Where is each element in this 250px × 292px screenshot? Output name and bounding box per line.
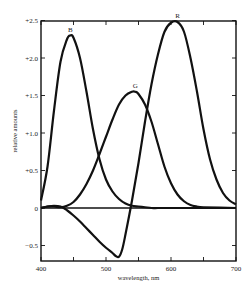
curves (41, 21, 236, 257)
series-label-g: G (133, 82, 138, 90)
y-tick-label: −0.5 (25, 242, 38, 250)
color-matching-chart: +2.5+2.0+1.5+1.0+0.50−0.5 400500600700 B… (0, 0, 250, 292)
x-axis-ticks: 400500600700 (36, 21, 242, 273)
y-tick-label: +2.0 (25, 55, 38, 63)
y-axis-title: relative amounts (11, 109, 18, 153)
x-tick-label: 400 (36, 265, 47, 273)
series-label-b: B (68, 26, 73, 34)
x-tick-label: 600 (166, 265, 177, 273)
y-tick-label: +2.5 (25, 17, 38, 25)
x-tick-label: 700 (231, 265, 242, 273)
y-tick-label: +1.0 (25, 130, 38, 138)
series-label-r: R (175, 12, 180, 20)
curve-b (41, 35, 236, 208)
y-tick-label: +1.5 (25, 92, 38, 100)
y-tick-label: +0.5 (25, 167, 38, 175)
x-axis-title: wavelength, nm (118, 274, 160, 281)
curve-r (41, 21, 236, 257)
y-tick-label: 0 (35, 205, 39, 213)
x-tick-label: 500 (101, 265, 112, 273)
